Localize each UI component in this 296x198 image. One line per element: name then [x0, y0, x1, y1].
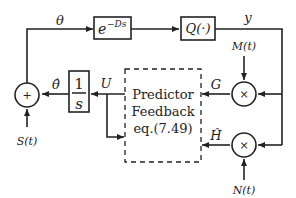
svg-text:s: s — [75, 95, 83, 113]
svg-text:Feedback: Feedback — [131, 104, 194, 119]
s-label: S(t) — [17, 135, 38, 148]
svg-text:1: 1 — [74, 75, 84, 93]
quantizer-block: Q(·) — [181, 17, 215, 40]
y-label: y — [243, 10, 252, 25]
svg-text:×: × — [239, 88, 248, 101]
svg-text:×: × — [239, 139, 248, 152]
integrator-block: 1 s — [69, 71, 89, 113]
block-diagram: e −Ds Q(·) 1 s Predictor Feedback eq.(7.… — [0, 0, 296, 198]
svg-text:Predictor: Predictor — [132, 87, 194, 102]
h-hat-label: Ĥ — [209, 128, 222, 143]
m-label: M(t) — [231, 40, 256, 53]
multiplier-bottom: × — [232, 133, 256, 157]
svg-text:e: e — [98, 21, 106, 37]
u-feedback-wire — [107, 94, 124, 137]
theta-hat-label: θ̂ — [52, 77, 60, 92]
svg-text:+: + — [22, 89, 31, 102]
summing-junction: + — [15, 83, 39, 107]
predictor-feedback-block: Predictor Feedback eq.(7.49) — [125, 69, 201, 162]
multiplier-top: × — [232, 82, 256, 106]
svg-text:eq.(7.49): eq.(7.49) — [133, 121, 192, 136]
svg-text:Q(·): Q(·) — [186, 21, 211, 36]
u-label: U — [101, 76, 113, 91]
svg-text:−Ds: −Ds — [107, 19, 127, 29]
g-label: G — [211, 77, 221, 92]
n-label: N(t) — [232, 184, 256, 197]
theta-label: θ — [56, 13, 64, 28]
delay-block: e −Ds — [94, 17, 131, 39]
